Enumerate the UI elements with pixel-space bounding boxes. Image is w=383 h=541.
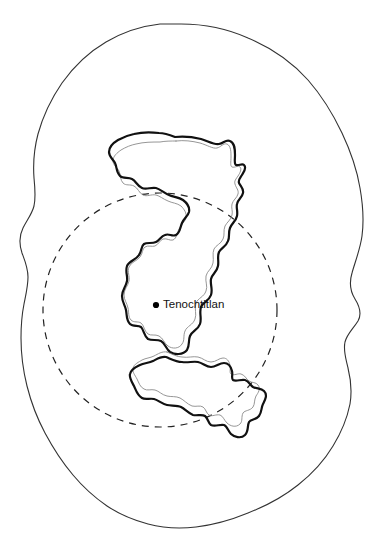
lake-south-outer-line (130, 357, 266, 437)
lake-inner-line (113, 141, 241, 348)
map-figure: Tenochtitlan (0, 0, 383, 541)
range-circle (43, 193, 277, 427)
city-label: Tenochtitlan (163, 298, 224, 310)
lake-outer-line (109, 132, 245, 354)
city-marker-dot (153, 302, 159, 308)
map-canvas: Tenochtitlan (0, 0, 383, 541)
valley-outline-path (20, 24, 363, 528)
